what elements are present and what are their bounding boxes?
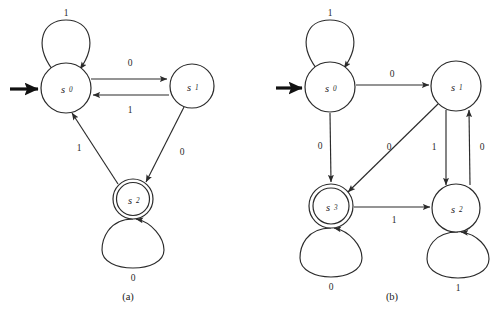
edge-label-a-s2-s0: 1 [77,143,82,153]
node-label-b-s0: s [325,83,329,94]
node-b-s0: s 0 [305,62,355,112]
node-label-b-s1: s [451,82,455,93]
node-label-a-s2: s [128,195,132,206]
figure-root: 1 0 1 0 1 0 s 0 [0,0,494,317]
edge-label-a-s0-s1: 0 [128,58,133,68]
self-loop-b-s3 [300,228,362,277]
edge-b-s1-to-s3 [348,104,438,192]
edge-label-a-s1-s2: 0 [180,147,185,157]
state-machine-figure: 1 0 1 0 1 0 s 0 [0,0,494,317]
edge-label-b-s1-s2: 1 [432,142,437,152]
node-a-s2: s 2 [113,179,153,219]
diagram-a: 1 0 1 0 1 0 s 0 [10,8,214,303]
edge-b-s0-to-s3 [330,113,331,182]
node-sub-a-s2: 2 [136,197,140,205]
node-label-a-s1: s [187,82,191,93]
self-loop-a-s0 [42,20,90,69]
node-label-b-s2: s [451,204,455,215]
caption-a: (a) [122,291,134,303]
edge-label-b-s2-s1: 0 [480,142,485,152]
edge-label-b-s2-loop: 1 [456,283,461,293]
edge-label-b-s0-s1: 0 [390,69,395,79]
node-sub-a-s1: 1 [195,84,199,92]
edge-label-b-s0-loop: 1 [328,8,333,18]
caption-b: (b) [386,291,399,303]
edge-label-a-s0-loop: 1 [64,8,69,18]
node-sub-b-s3: 3 [333,204,338,212]
diagram-b: 1 0 0 0 1 0 1 0 1 [276,8,489,303]
node-b-s1: s 1 [431,61,481,111]
edge-label-b-s0-s3: 0 [318,141,323,151]
node-label-a-s0: s [61,84,65,95]
node-b-s3: s 3 [309,184,353,228]
node-a-s1: s 1 [170,64,214,108]
node-label-b-s3: s [326,202,330,213]
edge-label-a-s1-s0: 1 [128,105,133,115]
edge-label-b-s3-loop: 0 [329,282,334,292]
self-loop-b-s0 [306,20,354,68]
edge-label-b-s1-s3: 0 [387,142,392,152]
edge-label-b-s3-s2: 1 [392,215,397,225]
node-sub-b-s0: 0 [333,85,337,93]
self-loop-b-s2 [427,232,489,278]
node-a-s0: s 0 [41,63,91,113]
edge-label-a-s2-loop: 0 [131,273,136,283]
node-sub-a-s0: 0 [69,86,73,94]
self-loop-a-s2 [102,219,164,268]
node-sub-b-s2: 2 [459,206,463,214]
node-b-s2: s 2 [432,184,480,232]
edge-b-s2-to-s1 [469,110,470,185]
edge-a-s1-to-s2 [146,107,184,182]
node-sub-b-s1: 1 [459,84,463,92]
